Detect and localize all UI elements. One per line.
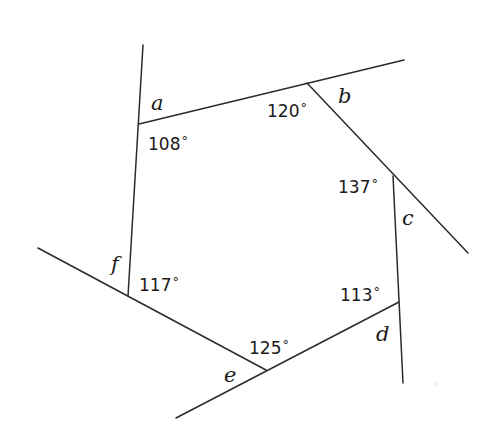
- angle-value: 117: [139, 275, 171, 295]
- interior-angle-labels: 108°120°137°113°125°117°: [139, 100, 380, 358]
- degree-symbol: °: [172, 274, 179, 289]
- exterior-angle-label-c: c: [402, 206, 414, 230]
- line-bc: [307, 83, 468, 253]
- angle-value: 108: [148, 134, 180, 154]
- angle-value: 120: [267, 101, 299, 121]
- line-de: [176, 302, 399, 418]
- angle-label-f: 117°: [139, 274, 179, 295]
- angle-label-b: 120°: [267, 100, 307, 121]
- exterior-angle-label-b: b: [338, 84, 351, 108]
- speck-dot: [436, 383, 438, 385]
- degree-symbol: °: [282, 337, 289, 352]
- angle-value: 137: [338, 177, 370, 197]
- exterior-angle-label-d: d: [376, 322, 389, 346]
- exterior-angle-label-a: a: [151, 91, 164, 115]
- angle-label-d: 113°: [340, 284, 380, 305]
- line-ef: [38, 248, 266, 370]
- degree-symbol: °: [373, 284, 380, 299]
- angle-value: 125: [249, 338, 281, 358]
- angle-label-a: 108°: [148, 133, 188, 154]
- exterior-angle-label-f: f: [109, 252, 122, 276]
- angle-value: 113: [340, 285, 372, 305]
- degree-symbol: °: [300, 100, 307, 115]
- degree-symbol: °: [181, 133, 188, 148]
- lines-layer: [38, 45, 468, 418]
- line-fa: [128, 45, 143, 296]
- hexagon-exterior-angle-diagram: 108°120°137°113°125°117° abcdef: [0, 0, 495, 429]
- degree-symbol: °: [371, 176, 378, 191]
- exterior-angle-label-e: e: [224, 363, 236, 387]
- angle-label-c: 137°: [338, 176, 378, 197]
- angle-label-e: 125°: [249, 337, 289, 358]
